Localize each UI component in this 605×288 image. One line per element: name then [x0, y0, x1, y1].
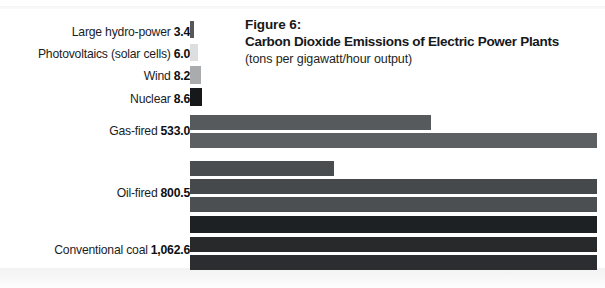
category-name: Oil-fired [117, 186, 158, 200]
category-value: 533.0 [161, 124, 191, 138]
bar-oil-fired-1 [190, 161, 334, 176]
bar-nuclear-1 [190, 88, 202, 106]
bar-conventional-coal-1 [190, 216, 597, 233]
bar-wind-1 [190, 66, 201, 84]
category-name: Conventional coal [54, 243, 148, 257]
category-name: Nuclear [130, 92, 171, 106]
bar-gas-fired-1 [190, 115, 431, 130]
bar-label-gas-fired: Gas-fired533.0 [109, 124, 190, 138]
category-value: 800.5 [161, 186, 191, 200]
category-value: 3.4 [174, 25, 190, 39]
bar-label-oil-fired: Oil-fired800.5 [117, 186, 190, 200]
figure-container: Figure 6: Carbon Dioxide Emissions of El… [0, 0, 605, 288]
category-name: Gas-fired [109, 124, 157, 138]
bar-label-wind: Wind8.2 [144, 69, 190, 83]
chart-plot-area: Large hydro-power3.4Photovoltaics (solar… [0, 0, 605, 288]
bar-conventional-coal-2 [190, 237, 597, 252]
category-value: 6.0 [174, 47, 190, 61]
bar-label-photovoltaics-solar-cells: Photovoltaics (solar cells)6.0 [38, 47, 190, 61]
category-name: Wind [144, 69, 171, 83]
bar-large-hydro-power-1 [190, 21, 194, 38]
bar-label-nuclear: Nuclear8.6 [130, 92, 190, 106]
bar-label-large-hydro-power: Large hydro-power3.4 [72, 25, 190, 39]
bar-photovoltaics-solar-cells-1 [190, 44, 198, 61]
bar-gas-fired-2 [190, 133, 597, 148]
category-value: 8.2 [174, 69, 190, 83]
category-name: Photovoltaics (solar cells) [38, 47, 171, 61]
category-value: 1,062.6 [151, 243, 190, 257]
bar-oil-fired-3 [190, 197, 597, 212]
category-value: 8.6 [174, 92, 190, 106]
bar-conventional-coal-3 [190, 255, 597, 270]
category-name: Large hydro-power [72, 25, 171, 39]
bar-label-conventional-coal: Conventional coal1,062.6 [54, 243, 190, 257]
bar-oil-fired-2 [190, 179, 597, 194]
